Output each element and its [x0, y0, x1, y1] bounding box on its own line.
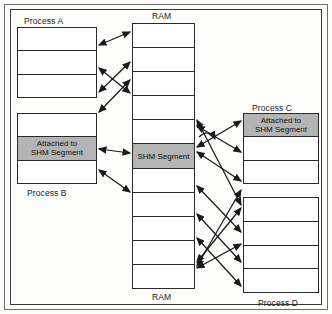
caption-process-c: Process C [252, 103, 292, 113]
ram-frame-4 [133, 120, 194, 144]
process-d-cell-1 [244, 222, 318, 246]
ram-frame-shm-segment: SHM Segment [133, 144, 194, 168]
process-a-cell-0 [18, 28, 96, 51]
caption-process-d: Process D [258, 298, 298, 308]
shared-memory-diagram: Process A Process B RAM RAM Process C Pr… [0, 0, 332, 314]
ram-frame-3 [133, 96, 194, 120]
caption-process-b: Process B [27, 188, 67, 198]
ram-frame-9 [133, 241, 194, 265]
caption-ram-bottom: RAM [152, 292, 171, 302]
process-d-cell-3 [244, 269, 318, 292]
ram-frame-2 [133, 72, 194, 96]
process-a-cell-2 [18, 75, 96, 97]
caption-process-a: Process A [24, 16, 63, 26]
caption-ram-top: RAM [152, 11, 171, 21]
process-d-cell-2 [244, 246, 318, 270]
block-process-d [243, 197, 319, 293]
block-ram: SHM Segment [132, 23, 195, 289]
ram-frame-7 [133, 193, 194, 217]
block-process-b: Attached to SHM Segment [17, 113, 97, 184]
process-c-cell-shm-attached: Attached to SHM Segment [244, 114, 318, 137]
block-process-a [17, 27, 97, 98]
process-d-cell-0 [244, 198, 318, 222]
block-process-c: Attached to SHM Segment [243, 113, 319, 184]
process-b-cell-shm-attached: Attached to SHM Segment [18, 137, 96, 160]
process-a-cell-1 [18, 51, 96, 74]
process-c-cell-1 [244, 137, 318, 160]
ram-frame-6 [133, 169, 194, 193]
process-c-cell-2 [244, 161, 318, 183]
process-b-cell-0 [18, 114, 96, 137]
ram-frame-10 [133, 265, 194, 288]
process-b-cell-2 [18, 161, 96, 183]
ram-frame-1 [133, 48, 194, 72]
ram-frame-8 [133, 217, 194, 241]
ram-frame-0 [133, 24, 194, 48]
